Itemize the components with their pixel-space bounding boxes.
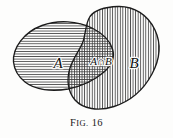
caption-small-caps: IG.: [76, 118, 88, 128]
set-a-label: A: [52, 55, 63, 71]
figure-caption: FIG. 16: [0, 117, 173, 128]
intersection-label: A∩B: [89, 55, 112, 67]
caption-number: 16: [92, 117, 103, 128]
venn-diagram: A B A∩B: [0, 0, 173, 118]
set-b-label: B: [129, 55, 138, 71]
figure-container: A B A∩B FIG. 16: [0, 0, 173, 138]
